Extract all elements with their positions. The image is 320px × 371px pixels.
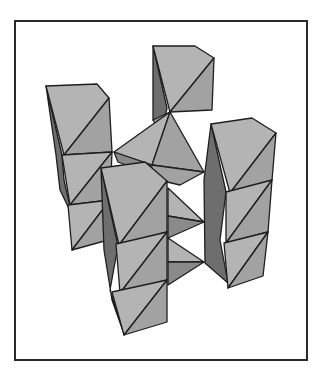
left-octahedra-chain — [46, 84, 112, 250]
polyhedral-structure-diagram — [0, 0, 320, 371]
front-center-octahedra-chain — [101, 162, 167, 335]
figure-canvas — [0, 0, 320, 371]
polyhedron-face — [168, 238, 204, 262]
polyhedron-face — [168, 262, 204, 285]
right-octahedra-chain — [204, 118, 276, 288]
